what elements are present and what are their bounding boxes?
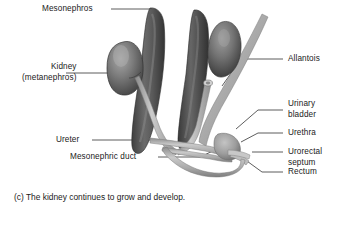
label-urorectal-septum-line1: Urorectal (288, 147, 322, 158)
figure-caption: (c) The kidney continues to grow and dev… (14, 192, 185, 202)
label-urorectal-septum: Urorectal septum (288, 147, 322, 168)
label-urinary-bladder-line2: bladder (288, 110, 316, 121)
label-allantois: Allantois (288, 54, 320, 65)
kidney-left-metanephros (107, 41, 143, 95)
label-kidney-line2: (metanephros) (22, 73, 77, 84)
anatomy-figure: Mesonephros Kidney (metanephros) Ureter … (0, 0, 342, 226)
leader-lines (66, 9, 283, 172)
label-mesonephric-duct: Mesonephric duct (70, 152, 136, 163)
label-kidney-line1: Kidney (22, 62, 77, 73)
label-urinary-bladder-line1: Urinary (288, 99, 316, 110)
label-urinary-bladder: Urinary bladder (288, 99, 316, 120)
label-kidney: Kidney (metanephros) (22, 62, 77, 83)
label-urethra: Urethra (288, 128, 316, 139)
label-mesonephros: Mesonephros (42, 4, 93, 15)
label-rectum: Rectum (288, 167, 317, 178)
label-ureter: Ureter (56, 135, 79, 146)
